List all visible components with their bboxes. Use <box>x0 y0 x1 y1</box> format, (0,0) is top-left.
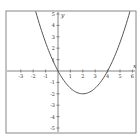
parabola-plot: -3-2-1123456-5-4-3-2-112345 x y <box>0 0 140 136</box>
x-tick-label: 5 <box>118 73 121 79</box>
plot-frame <box>6 11 136 133</box>
y-tick-label: -5 <box>50 125 55 131</box>
x-tick-label: 6 <box>131 73 134 79</box>
x-tick-label: 1 <box>69 73 72 79</box>
y-tick-label: 3 <box>52 34 55 40</box>
y-tick-label: -2 <box>50 91 55 97</box>
y-axis-label: y <box>60 11 65 19</box>
x-tick-label: -2 <box>31 73 36 79</box>
x-tick-label: 2 <box>81 73 84 79</box>
y-tick-label: -1 <box>50 79 55 85</box>
x-tick-label: 3 <box>94 73 97 79</box>
y-tick-label: 5 <box>52 11 55 17</box>
x-tick-label: -3 <box>18 73 23 79</box>
y-tick-label: 2 <box>52 45 55 51</box>
y-tick-label: -4 <box>50 114 55 120</box>
axes <box>7 12 135 132</box>
y-tick-label: -3 <box>50 102 55 108</box>
y-tick-label: 4 <box>52 22 55 28</box>
x-tick-label: -1 <box>43 73 48 79</box>
